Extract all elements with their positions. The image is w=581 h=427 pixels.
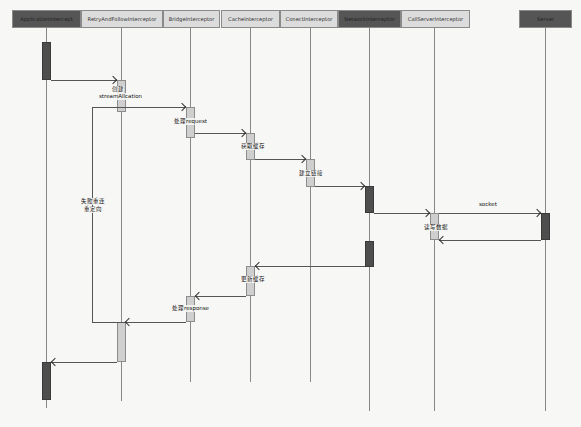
- arrow-head-icon: [195, 292, 203, 300]
- arrow-head-icon: [298, 155, 306, 163]
- message-retry-to-app: [51, 362, 117, 363]
- arrow-head-icon: [125, 318, 133, 326]
- message-bridge-to-retry: [92, 322, 186, 323]
- arrow-head-icon: [238, 129, 246, 137]
- message-label-process-request: 处理request: [174, 118, 207, 125]
- arrow-head-icon: [255, 262, 263, 270]
- message-label-read-write: 读写数据: [424, 224, 448, 231]
- message-label-get-cache: 获取缓存: [241, 143, 265, 150]
- arrow-head-icon: [51, 358, 59, 366]
- loop-label-line2: 重定向: [84, 206, 102, 213]
- message-call-server-to-server: [439, 213, 541, 214]
- activation-network-1: [365, 186, 374, 213]
- message-label-create-line2: streamAllcation: [99, 93, 142, 100]
- lifeline-network-interceptor: [369, 28, 370, 411]
- loop-label-line1: 失败重连: [81, 198, 105, 205]
- message-network-to-cache: [255, 266, 365, 267]
- participant-retry-and-follow-interceptor: RetryAndFollowInterceptor: [81, 10, 163, 28]
- message-retry-to-bridge: [92, 107, 186, 108]
- message-label-create-line1: 创建: [112, 86, 124, 93]
- arrow-head-icon: [109, 76, 117, 84]
- message-app-to-retry: [51, 80, 117, 81]
- message-server-to-call-server: [439, 240, 541, 241]
- activation-retry-2: [117, 322, 126, 362]
- arrow-head-icon: [178, 103, 186, 111]
- participant-bridge-interceptor: BridgeInterceptor: [163, 10, 220, 28]
- arrow-head-icon: [357, 182, 365, 190]
- lifeline-cache-interceptor: [250, 28, 251, 382]
- message-label-connect: 建立链接: [299, 170, 323, 177]
- message-label-update-cache: 更新缓存: [241, 276, 265, 283]
- arrow-head-icon: [422, 209, 430, 217]
- lifeline-application-intercept: [46, 28, 47, 408]
- participant-network-interceptor: NetworkInterceptor: [338, 10, 401, 28]
- message-label-socket: socket: [479, 201, 497, 208]
- participant-conect-interceptor: ConectInterceptor: [280, 10, 338, 28]
- arrow-head-icon: [439, 236, 447, 244]
- lifeline-bridge-interceptor: [190, 28, 191, 382]
- participant-call-server-interceptor: CallServerInterceptor: [401, 10, 470, 28]
- activation-server-1: [541, 213, 550, 240]
- activation-network-2: [365, 241, 374, 267]
- lifeline-conect-interceptor: [310, 28, 311, 382]
- activation-application-start: [42, 42, 51, 80]
- arrow-head-icon: [533, 209, 541, 217]
- retry-loop-line: [92, 107, 93, 322]
- participant-application-intercept: ApplicationIntercept: [12, 10, 81, 28]
- message-label-process-response: 处理response: [172, 305, 209, 312]
- participant-server: Server: [519, 10, 572, 28]
- activation-application-end: [42, 362, 51, 400]
- sequence-diagram: ApplicationIntercept RetryAndFollowInter…: [0, 0, 581, 427]
- participant-cache-interceptor: CacheInterceptor: [221, 10, 280, 28]
